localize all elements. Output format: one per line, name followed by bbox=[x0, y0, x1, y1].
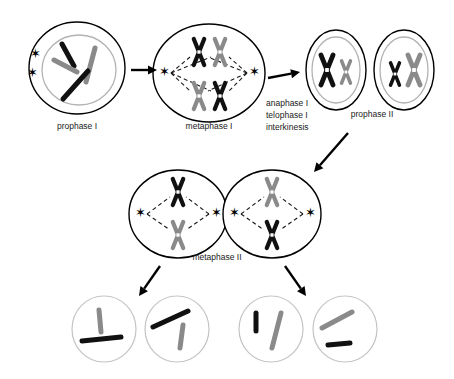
stage-gametes bbox=[72, 296, 377, 362]
spindle-pole-aster-icon: ✶ bbox=[211, 205, 222, 220]
arrow-head bbox=[297, 286, 306, 296]
cells-layer: ✶✶✶✶✶✶✶✶ bbox=[27, 22, 435, 362]
arrow-head bbox=[139, 286, 148, 296]
spindle-pole-aster-icon: ✶ bbox=[135, 205, 146, 220]
cell-membrane bbox=[306, 30, 366, 110]
spindle-pole-aster-icon: ✶ bbox=[27, 65, 38, 80]
centromere-gap bbox=[218, 94, 221, 97]
label-prophase-ii: prophase II bbox=[351, 109, 394, 119]
label-metaphase-i: metaphase I bbox=[186, 121, 233, 131]
centromere-gap bbox=[394, 73, 397, 76]
centromere-gap bbox=[345, 71, 348, 74]
centromere-gap bbox=[197, 50, 200, 53]
label-interkinesis: interkinesis bbox=[266, 122, 309, 132]
gamete-membrane bbox=[239, 296, 303, 362]
centromere-gap bbox=[218, 50, 221, 53]
labels-layer: prophase Imetaphase Iprophase IImetaphas… bbox=[57, 98, 393, 262]
spindle-pole-aster-icon: ✶ bbox=[30, 46, 41, 61]
spindle-pole-aster-icon: ✶ bbox=[159, 64, 170, 79]
centromere-gap bbox=[325, 68, 329, 72]
chromosome-gray bbox=[180, 325, 183, 348]
stage-metaphase-i: ✶✶ bbox=[153, 24, 265, 122]
arrow-prophase-ii-to-metaphase-ii bbox=[314, 133, 348, 172]
centromere-gap bbox=[176, 233, 179, 236]
chromosome-dark bbox=[328, 343, 350, 345]
label-metaphase-ii: metaphase II bbox=[192, 252, 241, 262]
arrow-metaphase-i-to-prophase-ii bbox=[268, 69, 300, 78]
meiosis-diagram-svg: ✶✶✶✶✶✶✶✶ prophase Imetaphase Iprophase I… bbox=[0, 0, 454, 379]
cell-membrane bbox=[29, 22, 125, 114]
arrow-metaphase-ii-right-to-gametes bbox=[285, 266, 306, 296]
centromere-gap bbox=[270, 233, 273, 236]
stage-prophase-i: ✶✶ bbox=[27, 22, 126, 114]
arrow-metaphase-ii-left-to-gametes bbox=[139, 266, 160, 296]
arrow-shaft bbox=[320, 133, 348, 165]
meiosis-diagram-canvas: ✶✶✶✶✶✶✶✶ prophase Imetaphase Iprophase I… bbox=[0, 0, 454, 379]
spindle-pole-aster-icon: ✶ bbox=[249, 64, 260, 79]
arrow-head bbox=[290, 69, 300, 78]
label-anaphase-i: anaphase I bbox=[266, 98, 308, 108]
stage-metaphase-ii: ✶✶✶✶ bbox=[129, 170, 321, 258]
centromere-gap bbox=[412, 68, 416, 72]
label-prophase-i: prophase I bbox=[57, 121, 97, 131]
chromosome-gray bbox=[99, 310, 101, 332]
centromere-gap bbox=[176, 190, 179, 193]
spindle-pole-aster-icon: ✶ bbox=[229, 205, 240, 220]
centromere-gap bbox=[197, 94, 200, 97]
label-telophase-i: telophase I bbox=[266, 110, 308, 120]
gamete-membrane bbox=[72, 296, 136, 362]
cell-membrane bbox=[374, 30, 434, 110]
spindle-pole-aster-icon: ✶ bbox=[305, 205, 316, 220]
stage-prophase-ii bbox=[306, 30, 434, 110]
centromere-gap bbox=[270, 190, 273, 193]
arrow-shaft bbox=[285, 266, 301, 289]
arrow-shaft bbox=[144, 266, 160, 289]
arrow-shaft bbox=[268, 74, 291, 78]
